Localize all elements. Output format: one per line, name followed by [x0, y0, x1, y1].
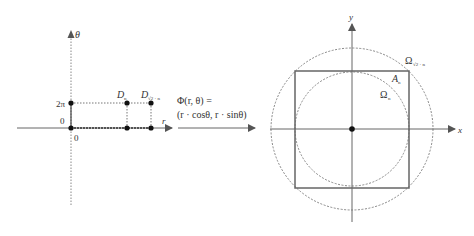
label-omega-sqrt2n-sub: √2 · n [413, 62, 425, 67]
label-Dsqrt2n: D √2 · n [140, 89, 160, 101]
label-Dsqrt2n-sub: √2 · n [148, 96, 160, 101]
point-Dn-bottom [124, 125, 129, 130]
point-Dn-top [124, 100, 129, 105]
tick-r-0-label: 0 [74, 133, 79, 143]
point-origin [68, 125, 73, 130]
label-omega-sqrt2n: Ω √2 · n [405, 55, 425, 67]
point-center [349, 126, 355, 132]
left-plot: θ r 2π 0 0 D n D √2 · n [17, 29, 172, 205]
mapping-line1: Φ(r, θ) = [177, 95, 212, 107]
point-Dsqrt2n-top [148, 100, 153, 105]
label-Dn-sub: n [124, 96, 127, 101]
label-An: A n [391, 73, 401, 85]
point-Dsqrt2n-bottom [148, 125, 153, 130]
theta-axis-arrow-icon [68, 30, 75, 38]
label-omega-n-sub: n [388, 96, 391, 101]
x-axis-label: x [457, 125, 462, 135]
mapping: Φ(r, θ) = (r · cosθ, r · sinθ) [177, 95, 255, 128]
mapping-line2: (r · cosθ, r · sinθ) [177, 109, 247, 121]
label-omega-sqrt2n-main: Ω [405, 55, 412, 66]
diagram-canvas: θ r 2π 0 0 D n D √2 · n Φ(r, θ) = (r · c… [0, 0, 474, 236]
point-0-2pi [68, 100, 73, 105]
label-omega-n: Ω n [380, 89, 391, 101]
label-An-sub: n [398, 80, 401, 85]
tick-2pi-label: 2π [56, 99, 66, 109]
label-omega-n-main: Ω [380, 89, 387, 100]
label-Dn: D n [116, 89, 127, 101]
y-axis-label: y [348, 12, 353, 22]
tick-theta-0-label: 0 [60, 116, 65, 126]
r-axis-label: r [162, 116, 166, 126]
theta-axis-label: θ [75, 29, 80, 40]
right-plot: x y Ω √2 · n A n Ω n [270, 12, 462, 222]
